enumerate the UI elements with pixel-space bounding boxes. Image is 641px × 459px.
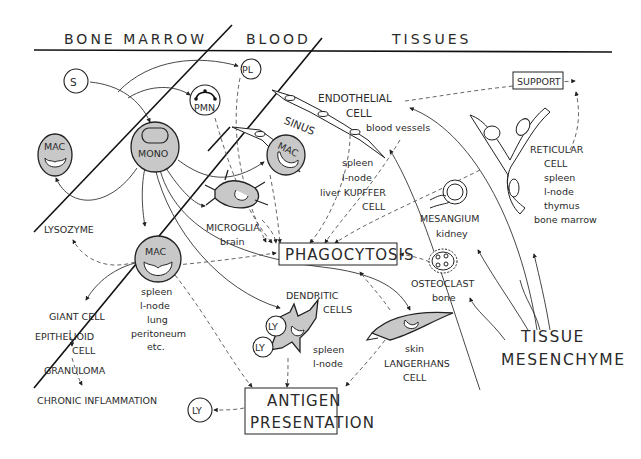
zone-bone-marrow: BONE MARROW — [64, 31, 207, 47]
osteoclast-label-2: bone — [432, 292, 456, 303]
mesangium-label-2: kidney — [436, 228, 468, 239]
phagocytosis-box: PHAGOCYTOSIS — [279, 243, 415, 265]
antigen-presentation-box: ANTIGEN PRESENTATION — [245, 388, 375, 434]
kupffer-label-3: liver KUPFFER — [320, 187, 386, 198]
mononuclear-phagocyte-diagram: BONE MARROW BLOOD TISSUES — [0, 0, 641, 459]
macrophage-tissue: MAC — [135, 236, 181, 282]
svg-text:SUPPORT: SUPPORT — [517, 76, 561, 87]
endothelial-label-1: ENDOTHELIAL — [318, 92, 392, 104]
support-box: SUPPORT — [513, 72, 563, 89]
mac-location-3: lung — [147, 314, 168, 325]
monocyte: MONO — [131, 122, 179, 172]
dendritic-location-2: l-node — [313, 358, 343, 369]
macrophage-marrow: MAC — [38, 134, 72, 176]
lymphocyte-1: LY — [266, 316, 286, 336]
svg-text:PMN: PMN — [194, 102, 215, 113]
svg-text:S: S — [70, 76, 77, 88]
microglia-cell — [205, 170, 268, 208]
lymphocyte-2: LY — [253, 337, 273, 357]
header-rule — [34, 50, 612, 52]
langerhans-label-2: LANGERHANS — [384, 358, 450, 369]
kupffer-label-2: l-node — [342, 172, 372, 183]
svg-text:MAC: MAC — [44, 141, 66, 152]
dendritic-label-1: DENDRITIC — [286, 290, 339, 301]
langerhans-label-3: CELL — [403, 372, 427, 383]
reticular-cells — [470, 108, 550, 214]
platelet-cell: PL — [241, 59, 261, 79]
reticular-label-1: RETICULAR — [530, 144, 584, 155]
svg-text:ANTIGEN: ANTIGEN — [267, 392, 341, 410]
epithelioid-label-2: CELL — [72, 345, 96, 356]
osteoclast-label-1: OSTEOCLAST — [411, 278, 474, 289]
granuloma-label: GRANULOMA — [44, 365, 106, 376]
lysozyme-label: LYSOZYME — [44, 224, 94, 235]
dendritic-location-1: spleen — [313, 344, 344, 355]
reticular-label-3: spleen — [544, 172, 575, 183]
svg-text:PRESENTATION: PRESENTATION — [250, 414, 375, 432]
lymphocyte-output: LY — [188, 398, 212, 422]
svg-text:LY: LY — [255, 342, 265, 353]
svg-text:MONO: MONO — [138, 148, 168, 159]
microglia-label-1: MICROGLIA — [206, 222, 260, 233]
mac-location-2: l-node — [140, 300, 170, 311]
svg-text:MAC: MAC — [145, 246, 167, 257]
svg-text:PHAGOCYTOSIS: PHAGOCYTOSIS — [285, 246, 415, 264]
tissue-label-1: TISSUE — [520, 328, 585, 346]
tissue-label-2: MESENCHYME — [501, 351, 626, 369]
solid-arrows — [56, 60, 550, 390]
svg-text:LY: LY — [192, 405, 202, 416]
divider-marrow-blood — [34, 25, 232, 232]
chronic-inflammation-label: CHRONIC INFLAMMATION — [37, 395, 157, 406]
langerhans-label-1: skin — [405, 343, 424, 354]
reticular-label-4: l-node — [544, 186, 574, 197]
macrophage-sinus: MAC — [267, 135, 305, 175]
microglia-label-2: brain — [220, 236, 244, 247]
kupffer-label-1: spleen — [342, 157, 373, 168]
osteoclast-cell — [429, 249, 457, 273]
mac-location-5: etc. — [147, 341, 165, 352]
blood-vessels-label: blood vessels — [366, 122, 430, 133]
giant-cell-label: GIANT CELL — [49, 311, 106, 322]
mesangium-cell — [430, 180, 467, 208]
pmn-cell: PMN — [190, 85, 220, 115]
reticular-label-6: bone marrow — [534, 214, 597, 225]
svg-text:LY: LY — [268, 321, 278, 332]
mac-location-4: peritoneum — [131, 328, 186, 339]
epithelioid-label-1: EPITHELIOID — [35, 331, 94, 342]
reticular-label-2: CELL — [544, 158, 568, 169]
mac-location-1: spleen — [141, 286, 172, 297]
reticular-label-5: thymus — [544, 200, 580, 211]
stem-cell: S — [64, 69, 88, 93]
mesangium-label-1: MESANGIUM — [420, 213, 479, 224]
endothelial-label-2: CELL — [346, 107, 372, 119]
zone-tissues: TISSUES — [391, 31, 471, 47]
svg-text:PL: PL — [242, 64, 254, 75]
dendritic-label-2: CELLS — [323, 304, 352, 315]
langerhans-cell — [367, 312, 453, 340]
kupffer-label-4: CELL — [362, 201, 386, 212]
zone-blood: BLOOD — [246, 31, 311, 47]
sinus-label: SINUS — [283, 114, 317, 137]
